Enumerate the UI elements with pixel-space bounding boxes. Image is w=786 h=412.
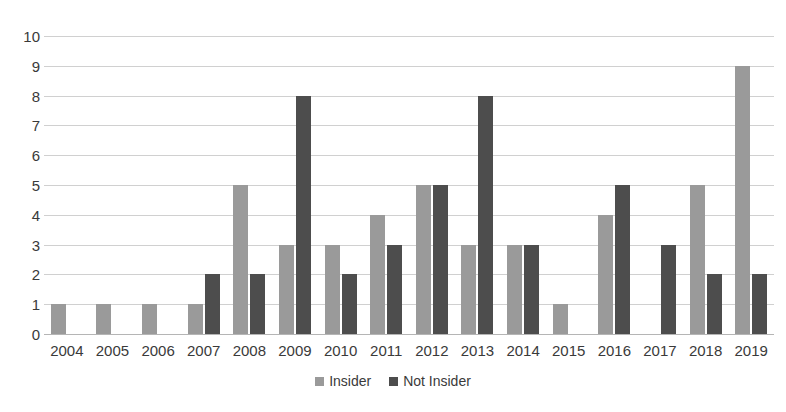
bar-slot — [233, 36, 248, 334]
bar-slot — [370, 36, 385, 334]
y-tick-label-10: 10 — [6, 29, 40, 44]
bar-slot — [296, 36, 311, 334]
bar-slot — [113, 36, 128, 334]
bar-not-insider-2018 — [707, 274, 722, 334]
bar-group-2013 — [455, 36, 501, 334]
y-tick-label-7: 7 — [6, 118, 40, 133]
x-tick-label-2017: 2017 — [637, 338, 683, 364]
chart-legend: InsiderNot Insider — [0, 374, 786, 388]
bar-group-2014 — [500, 36, 546, 334]
bar-group-2016 — [592, 36, 638, 334]
bar-slot — [478, 36, 493, 334]
bar-slot — [68, 36, 83, 334]
bar-group-2010 — [318, 36, 364, 334]
x-tick-label-2016: 2016 — [592, 338, 638, 364]
bar-slot — [707, 36, 722, 334]
bar-insider-2008 — [233, 185, 248, 334]
x-tick-label-2009: 2009 — [272, 338, 318, 364]
bar-slot — [553, 36, 568, 334]
bar-not-insider-2007 — [205, 274, 220, 334]
bar-insider-2019 — [735, 66, 750, 334]
bar-slot — [598, 36, 613, 334]
bar-slot — [661, 36, 676, 334]
bar-slot — [615, 36, 630, 334]
bar-slot — [690, 36, 705, 334]
y-tick-label-9: 9 — [6, 58, 40, 73]
bar-slot — [461, 36, 476, 334]
bar-slot — [279, 36, 294, 334]
y-tick-label-5: 5 — [6, 178, 40, 193]
bar-insider-2006 — [142, 304, 157, 334]
bar-slot — [752, 36, 767, 334]
y-tick-label-8: 8 — [6, 88, 40, 103]
bar-slot — [325, 36, 340, 334]
bar-insider-2013 — [461, 245, 476, 334]
bar-group-2006 — [135, 36, 181, 334]
bar-group-2017 — [637, 36, 683, 334]
x-tick-label-2014: 2014 — [500, 338, 546, 364]
y-tick-label-0: 0 — [6, 327, 40, 342]
x-tick-label-2007: 2007 — [181, 338, 227, 364]
bar-group-2007 — [181, 36, 227, 334]
x-axis: 2004200520062007200820092010201120122013… — [44, 338, 774, 364]
x-tick-label-2012: 2012 — [409, 338, 455, 364]
x-tick-label-2011: 2011 — [363, 338, 409, 364]
y-tick-label-3: 3 — [6, 237, 40, 252]
y-axis: 109876543210 — [0, 36, 40, 334]
bar-insider-2012 — [416, 185, 431, 334]
bar-slot — [507, 36, 522, 334]
bar-slot — [387, 36, 402, 334]
bar-not-insider-2010 — [342, 274, 357, 334]
bar-chart: 109876543210 200420052006200720082009201… — [0, 0, 786, 412]
bar-slot — [416, 36, 431, 334]
x-tick-label-2005: 2005 — [90, 338, 136, 364]
bar-not-insider-2016 — [615, 185, 630, 334]
bar-group-2019 — [728, 36, 774, 334]
legend-swatch-icon — [389, 377, 398, 386]
bar-insider-2015 — [553, 304, 568, 334]
legend-item-insider[interactable]: Insider — [315, 374, 371, 388]
x-tick-label-2010: 2010 — [318, 338, 364, 364]
bar-not-insider-2014 — [524, 245, 539, 334]
bar-not-insider-2011 — [387, 245, 402, 334]
bar-not-insider-2008 — [250, 274, 265, 334]
bar-not-insider-2012 — [433, 185, 448, 334]
bar-group-2008 — [227, 36, 273, 334]
y-tick-label-1: 1 — [6, 297, 40, 312]
legend-label: Insider — [329, 374, 371, 388]
bar-slot — [570, 36, 585, 334]
bar-slot — [142, 36, 157, 334]
bar-group-2004 — [44, 36, 90, 334]
x-tick-label-2006: 2006 — [135, 338, 181, 364]
gridline-0 — [44, 334, 774, 335]
bar-slot — [735, 36, 750, 334]
bar-insider-2007 — [188, 304, 203, 334]
bars-layer — [44, 36, 774, 334]
bar-insider-2004 — [51, 304, 66, 334]
y-tick-label-6: 6 — [6, 148, 40, 163]
legend-item-not-insider[interactable]: Not Insider — [389, 374, 471, 388]
bar-slot — [51, 36, 66, 334]
bar-insider-2014 — [507, 245, 522, 334]
x-tick-label-2019: 2019 — [728, 338, 774, 364]
bar-slot — [644, 36, 659, 334]
x-tick-label-2008: 2008 — [227, 338, 273, 364]
bar-slot — [188, 36, 203, 334]
bar-group-2011 — [363, 36, 409, 334]
bar-slot — [159, 36, 174, 334]
x-tick-label-2013: 2013 — [455, 338, 501, 364]
bar-not-insider-2019 — [752, 274, 767, 334]
plot-area — [44, 36, 774, 334]
bar-insider-2016 — [598, 215, 613, 334]
bar-not-insider-2009 — [296, 96, 311, 334]
y-tick-label-4: 4 — [6, 207, 40, 222]
bar-group-2012 — [409, 36, 455, 334]
bar-insider-2018 — [690, 185, 705, 334]
legend-swatch-icon — [315, 377, 324, 386]
x-tick-label-2018: 2018 — [683, 338, 729, 364]
bar-slot — [342, 36, 357, 334]
bar-slot — [96, 36, 111, 334]
bar-insider-2010 — [325, 245, 340, 334]
bar-insider-2009 — [279, 245, 294, 334]
bar-not-insider-2017 — [661, 245, 676, 334]
